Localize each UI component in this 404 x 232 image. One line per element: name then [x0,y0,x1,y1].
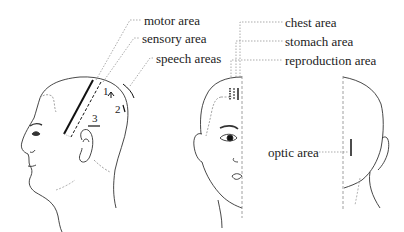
label-sensory-area: sensory area [142,32,207,45]
sensory-area-line [71,82,101,137]
label-speech-areas: speech areas [156,52,221,65]
front-leaders [231,22,283,77]
label-reproduction-area: reproduction area [285,54,376,67]
label-chest-area: chest area [285,16,337,29]
front-face-figure [194,77,242,228]
speech-area-2-mark [123,105,125,112]
label-optic-area: optic area [268,146,319,159]
speech-number-1: 1 [103,86,109,97]
label-stomach-area: stomach area [285,35,353,48]
front-area-marks [230,88,238,100]
speech-number-2: 2 [115,104,121,115]
back-head-figure [343,77,389,208]
label-motor-area: motor area [144,14,200,27]
side-head-figure [21,77,128,232]
side-head-leaders [96,20,153,86]
speech-number-3: 3 [92,113,98,124]
